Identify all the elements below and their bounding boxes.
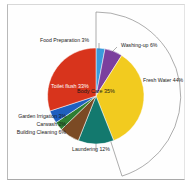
figure-container: Food Preparation 3% Washing-up 6% Body C… [0,0,188,193]
label-laundering: Laundering 12% [72,146,110,152]
label-fresh-water: Fresh Water 44% [143,77,184,83]
pie-chart: Food Preparation 3% Washing-up 6% Body C… [0,0,188,193]
label-toilet-flush: Toilet flush 33% [51,83,89,89]
label-food-preparation: Food Preparation 3% [40,37,89,43]
label-carwash: Carwash 2% [37,121,67,127]
label-building-cleaning: Building Cleaning 6% [17,129,67,135]
label-washing-up: Washing-up 6% [121,42,158,48]
leader-washing-up [112,47,117,52]
label-garden-irrigation: Garden Irrigation 3% [18,113,66,119]
